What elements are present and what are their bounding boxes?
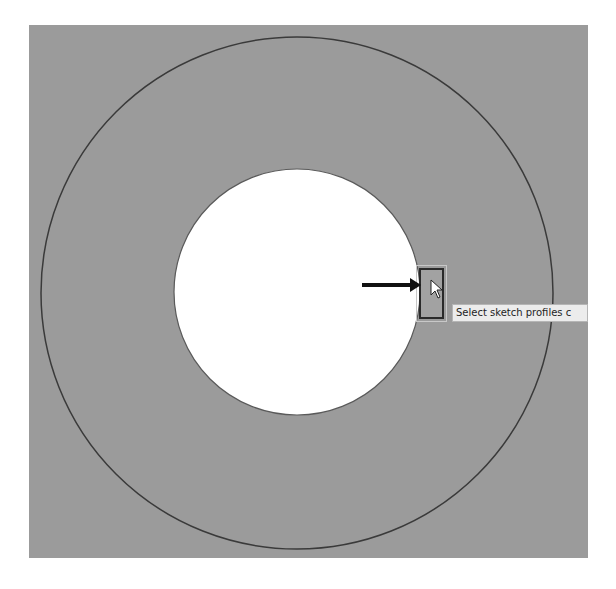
tooltip-text: Select sketch profiles c (456, 307, 571, 318)
inner-circle-profile[interactable] (174, 169, 420, 415)
tooltip: Select sketch profiles c (452, 304, 588, 322)
sketch-canvas[interactable] (0, 0, 616, 589)
profile-selection-box[interactable] (419, 268, 444, 319)
